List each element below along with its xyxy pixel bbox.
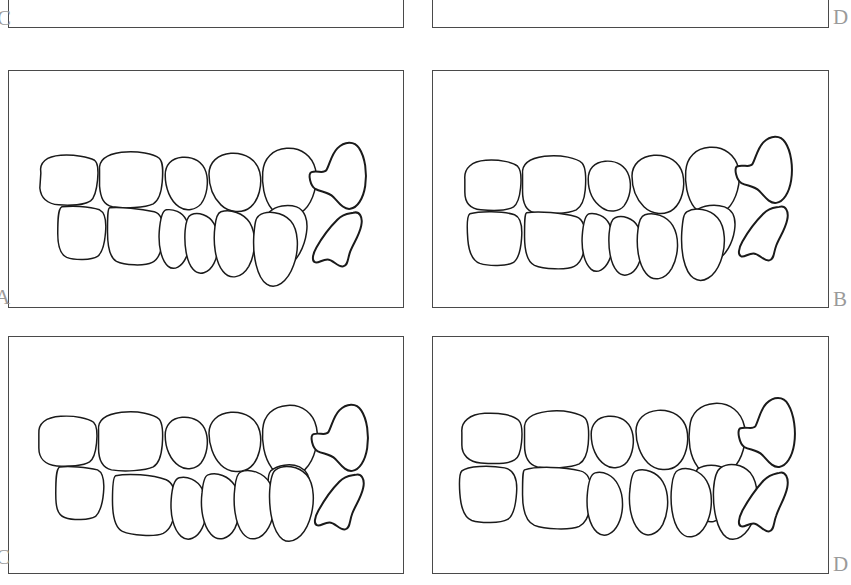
panel-c-drawing [9,337,403,573]
tooth-lower-1 [459,466,516,522]
figure-canvas: C D [0,0,851,585]
panel-label-b: B [833,289,847,310]
tooth-lower-3 [159,210,190,269]
tooth-upper-6 [695,465,734,522]
panel-b-drawing [433,71,828,307]
panel-c [8,336,404,574]
tooth-upper-6 [693,205,735,260]
tooth-lower-4 [185,214,219,273]
molar-outline-lower [315,474,364,529]
tooth-lower-2 [523,467,592,529]
tooth-upper-1 [40,155,98,205]
panel-d-drawing [433,337,828,573]
tooth-lower-5 [637,214,677,279]
tooth-upper-2 [98,412,162,471]
panel-label-a: A [0,287,10,308]
panel-a [8,70,404,308]
tooth-upper-6 [266,205,307,266]
molar-outline-upper [310,143,366,209]
molar-outline-lower [313,212,362,266]
tooth-upper-2 [99,152,162,208]
tooth-lower-5 [671,469,711,537]
molar-outline-lower [739,473,788,532]
tooth-upper-4 [636,410,688,469]
molar-outline-upper [739,398,795,467]
panel-a-drawing [9,71,403,307]
tooth-upper-3 [588,161,630,211]
molar-outline-upper [736,137,792,203]
tooth-upper-1 [39,416,97,466]
tooth-lower-6 [270,466,314,541]
tooth-lower-6 [713,464,757,539]
tooth-upper-2 [522,156,585,214]
tooth-lower-2 [112,474,175,535]
panel-b [432,70,829,308]
tooth-upper-4 [632,155,684,213]
panel-c-top [8,0,404,28]
tooth-lower-5 [234,470,274,538]
panel-label-c-top: C [0,8,11,29]
tooth-upper-3 [591,416,633,468]
tooth-upper-5 [689,403,745,475]
tooth-upper-4 [209,153,261,211]
tooth-lower-6 [254,212,298,286]
tooth-lower-1 [58,206,106,259]
tooth-upper-6 [268,465,310,524]
tooth-upper-3 [165,417,207,469]
tooth-upper-3 [165,157,207,209]
tooth-lower-1 [467,212,522,266]
tooth-upper-2 [524,411,588,468]
panel-label-d-top: D [833,7,848,28]
tooth-lower-3 [587,472,623,535]
tooth-lower-2 [525,212,586,269]
molar-outline-upper [312,405,368,471]
tooth-lower-6 [682,209,725,280]
tooth-upper-5 [685,147,739,215]
tooth-lower-2 [108,208,164,265]
tooth-upper-1 [462,413,522,463]
panel-d-top [432,0,829,28]
tooth-upper-4 [209,412,261,471]
tooth-lower-3 [171,477,207,539]
panel-label-c: C [0,547,10,568]
tooth-upper-5 [262,405,317,475]
tooth-lower-1 [56,467,104,520]
tooth-lower-4 [629,470,667,535]
panel-d [432,336,829,574]
molar-outline-lower [739,206,788,260]
tooth-lower-4 [609,217,643,275]
panel-label-d: D [833,554,848,575]
tooth-upper-1 [465,160,521,210]
tooth-lower-4 [201,474,239,539]
tooth-lower-5 [214,211,254,277]
tooth-upper-5 [262,148,316,216]
tooth-lower-3 [582,214,613,272]
